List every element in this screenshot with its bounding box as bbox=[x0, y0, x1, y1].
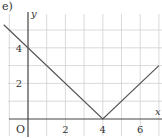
origin-label: O bbox=[16, 123, 25, 136]
panel-label: e) bbox=[2, 0, 13, 13]
data-line bbox=[4, 25, 159, 119]
x-tick-label: 4 bbox=[100, 124, 106, 135]
chart: e)yxO24624 bbox=[0, 0, 162, 138]
data-series bbox=[4, 25, 159, 119]
x-tick-label: 2 bbox=[62, 124, 68, 135]
grid-lines bbox=[8, 14, 162, 136]
axes bbox=[9, 12, 162, 137]
y-tick-label: 2 bbox=[16, 78, 22, 89]
x-tick-label: 6 bbox=[137, 124, 143, 135]
labels: e)yxO24624 bbox=[2, 0, 161, 136]
y-axis-label: y bbox=[30, 8, 37, 19]
x-axis-label: x bbox=[155, 106, 161, 117]
y-tick-label: 4 bbox=[16, 43, 22, 54]
